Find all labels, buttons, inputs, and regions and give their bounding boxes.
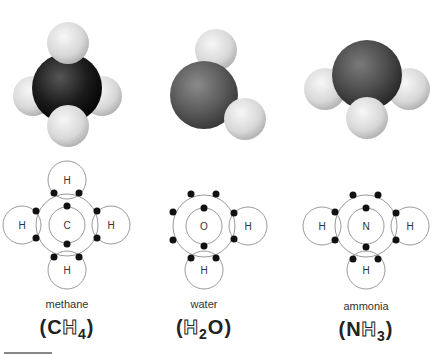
svg-text:H: H	[18, 220, 25, 231]
svg-text:H: H	[200, 265, 207, 276]
svg-text:H: H	[244, 221, 251, 232]
svg-text:H: H	[63, 265, 70, 276]
water-central-label: O	[200, 221, 208, 232]
methane-central-label: C	[63, 220, 70, 231]
ammonia-central-label: N	[362, 221, 369, 232]
svg-text:H: H	[318, 221, 325, 232]
methane-name: methane	[17, 298, 117, 310]
molecule-diagram: C H H H H O H H N H H H methane water am…	[0, 0, 442, 354]
svg-text:H: H	[107, 220, 114, 231]
svg-text:H: H	[406, 221, 413, 232]
methane-formula: (CH4)	[7, 316, 127, 342]
svg-text:H: H	[362, 265, 369, 276]
methane-model	[13, 22, 122, 147]
water-formula: (H2O)	[144, 316, 264, 342]
ammonia-model	[304, 40, 430, 139]
svg-text:H: H	[63, 175, 70, 186]
water-model	[170, 29, 266, 140]
ammonia-formula: (NH3)	[306, 318, 426, 344]
water-dot-diagram	[170, 191, 268, 290]
water-name: water	[154, 298, 254, 310]
ammonia-name: ammonia	[316, 300, 416, 312]
